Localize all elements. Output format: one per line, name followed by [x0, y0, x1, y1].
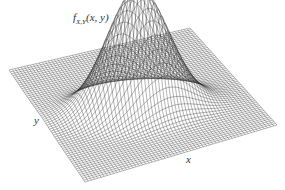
mesh-line-x [42, 45, 228, 117]
mesh-line-x [63, 96, 252, 150]
mesh-line-y [121, 31, 204, 147]
mesh-line-x [55, 8, 243, 137]
function-args: (x, y) [86, 11, 109, 23]
mesh-line-x [76, 114, 267, 169]
function-label: fX,Y(x, y) [73, 11, 109, 26]
mesh-line-x [33, 59, 217, 105]
mesh-line-x [9, 28, 190, 70]
mesh-line-x [56, 21, 244, 139]
y-axis-label: y [34, 114, 39, 126]
mesh-line-x [79, 117, 270, 173]
x-axis-label: x [186, 153, 191, 165]
mesh-line-x [25, 49, 208, 94]
surface-plot [0, 0, 285, 190]
mesh-line-x [75, 112, 266, 167]
function-subscript: X,Y [76, 18, 86, 26]
mesh-line-x [70, 106, 260, 160]
